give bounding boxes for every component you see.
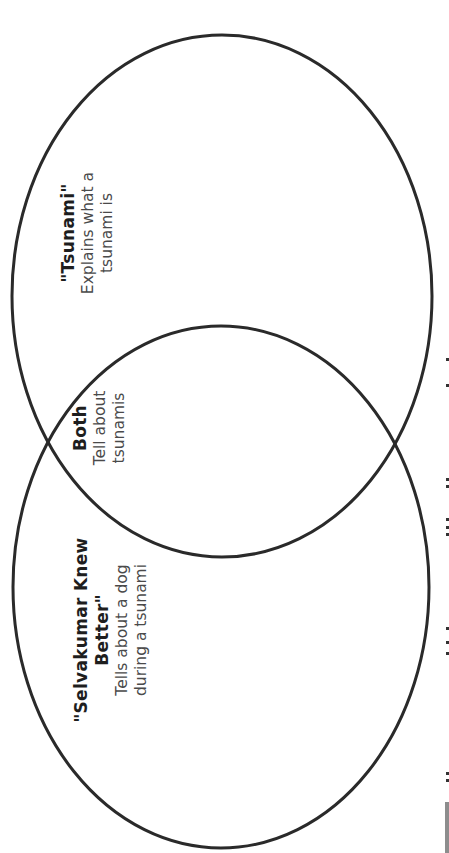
selvakumar-title-line-2: Better" bbox=[92, 500, 113, 760]
selvakumar-desc-line-1: Tells about a dog bbox=[113, 500, 132, 760]
tsunami-label: "Tsunami" Explains what a tsunami is bbox=[58, 148, 117, 318]
tsunami-desc-line-1: Explains what a bbox=[79, 148, 98, 318]
both-desc-line-1: Tell about bbox=[91, 378, 110, 478]
venn-diagram bbox=[0, 0, 449, 853]
tsunami-desc-line-2: tsunami is bbox=[98, 148, 117, 318]
selvakumar-title-line-1: "Selvakumar Knew bbox=[71, 500, 92, 760]
both-title: Both bbox=[70, 378, 91, 478]
tsunami-title: "Tsunami" bbox=[58, 148, 79, 318]
selvakumar-desc-line-2: during a tsunami bbox=[132, 500, 151, 760]
both-label: Both Tell about tsunamis bbox=[70, 378, 129, 478]
both-desc-line-2: tsunamis bbox=[110, 378, 129, 478]
cropped-gray-box bbox=[445, 802, 449, 853]
selvakumar-label: "Selvakumar Knew Better" Tells about a d… bbox=[71, 500, 151, 760]
